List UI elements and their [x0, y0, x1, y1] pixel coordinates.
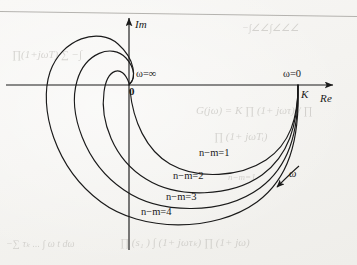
plot-linework	[0, 0, 357, 265]
nyquist-curve-n-m-4	[46, 36, 298, 225]
nyquist-curve-n-m-2	[103, 71, 298, 193]
page-rule-line	[0, 12, 357, 17]
nyquist-curve-n-m-1	[130, 85, 298, 175]
nyquist-plot-figure: −∫∠∠∫∠∠∠∏(1+jωT) ∑ −∫G(jω) = K ∏ (1+ jωτ…	[0, 0, 357, 265]
